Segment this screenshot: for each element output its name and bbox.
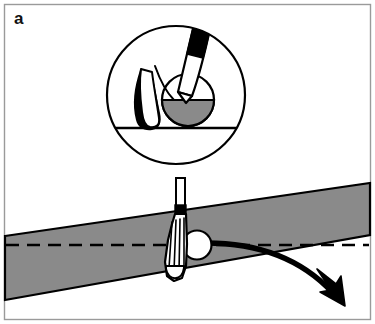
figure-illustration bbox=[0, 0, 375, 324]
club-shaft bbox=[176, 178, 185, 208]
club-sole bbox=[166, 266, 184, 278]
figure-panel: a bbox=[0, 0, 375, 324]
panel-label: a bbox=[14, 10, 23, 27]
